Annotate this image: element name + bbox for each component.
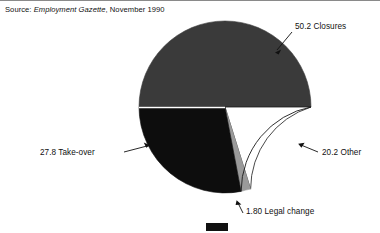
- leader-line-take-over: [124, 146, 147, 152]
- chart-figure: Source: Employment Gazette, November 199…: [0, 0, 380, 233]
- pie-label-other: 20.2 Other: [322, 148, 361, 157]
- page-marker-block: [206, 223, 228, 231]
- pie-chart: [0, 0, 380, 233]
- pie-label-legal-change: 1.80 Legal change: [246, 207, 314, 216]
- leader-arrow-legal-change: [236, 200, 242, 205]
- pie-slice-take-over: [139, 107, 241, 193]
- pie-slice-closures: [139, 21, 311, 107]
- leader-arrow-other: [298, 143, 304, 148]
- pie-label-take-over: 27.8 Take-over: [40, 148, 95, 157]
- leader-line-other: [301, 145, 318, 152]
- pie-label-closures: 50.2 Closures: [295, 22, 346, 31]
